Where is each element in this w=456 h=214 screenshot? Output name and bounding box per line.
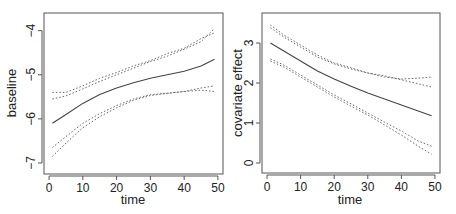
x-tick-label: 10 xyxy=(294,180,308,194)
y-axis: −7−6−5−4 xyxy=(24,23,42,169)
plot-frame xyxy=(262,13,440,173)
confidence-band-line xyxy=(52,86,214,157)
x-axis-label: time xyxy=(338,192,363,207)
confidence-band-line xyxy=(270,59,431,146)
y-tick-label: −5 xyxy=(24,68,38,82)
y-tick-label: −6 xyxy=(24,112,38,126)
x-tick-label: 10 xyxy=(76,181,90,195)
y-tick-label: −4 xyxy=(24,23,38,37)
x-tick-label: 20 xyxy=(110,181,124,195)
x-tick-label: 40 xyxy=(177,181,191,195)
y-tick-label: −7 xyxy=(24,156,38,170)
x-tick-label: 30 xyxy=(361,180,375,194)
x-tick-label: 50 xyxy=(211,181,225,195)
x-tick-label: 0 xyxy=(264,180,271,194)
x-tick-label: 40 xyxy=(395,180,409,194)
x-tick-label: 30 xyxy=(144,181,158,195)
y-tick-label: 0 xyxy=(242,159,256,166)
confidence-band-line xyxy=(52,33,214,93)
y-tick-label: 2 xyxy=(242,79,256,86)
y-axis-label: baseline xyxy=(4,69,19,117)
figure: baseline time 01020304050−7−6−5−4 covari… xyxy=(0,0,456,214)
plot-frame xyxy=(44,13,223,174)
y-tick-label: 3 xyxy=(242,39,256,46)
x-tick-label: 50 xyxy=(428,180,442,194)
x-tick-label: 0 xyxy=(46,181,53,195)
baseline-panel: baseline time 01020304050−7−6−5−4 xyxy=(4,13,225,207)
y-tick-label: 1 xyxy=(242,119,256,126)
confidence-band-line xyxy=(270,25,431,79)
x-tick-label: 20 xyxy=(328,180,342,194)
x-axis-label: time xyxy=(121,192,146,207)
confidence-band-line xyxy=(52,90,214,147)
covariate-effect-panel: covariate effect time 010203040500123 xyxy=(230,13,442,207)
estimate-line xyxy=(270,43,431,116)
